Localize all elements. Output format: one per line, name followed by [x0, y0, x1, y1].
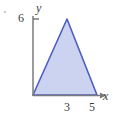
x-tick-label-3: 3: [64, 101, 70, 113]
plot-canvas: [0, 0, 113, 113]
x-axis-label: x: [103, 90, 108, 102]
y-tick-label-6: 6: [18, 12, 24, 24]
triangle-shape: [33, 19, 97, 95]
triangle-figure: 6 3 5 y x: [0, 0, 113, 113]
x-tick-label-5: 5: [89, 101, 95, 113]
y-axis-label: y: [36, 2, 41, 14]
